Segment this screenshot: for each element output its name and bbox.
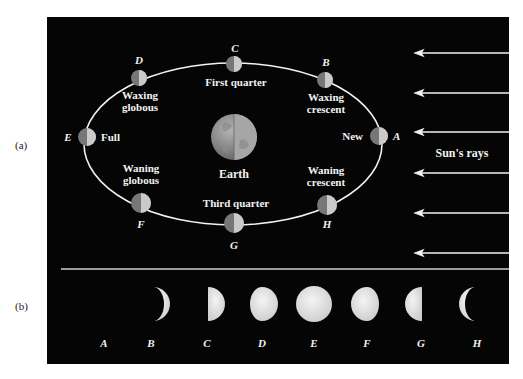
panel-label-b: (b) xyxy=(15,300,28,312)
phase-letter-f: F xyxy=(362,337,371,349)
moon-name-a: New xyxy=(342,130,363,142)
moon-icon-e xyxy=(78,128,96,146)
moon-name-h-line1: Waning xyxy=(308,164,345,176)
phase-letter-h: H xyxy=(472,337,482,349)
phase-letter-b: B xyxy=(146,337,154,349)
phase-icon-d xyxy=(250,287,278,321)
phase-letter-d: D xyxy=(257,337,266,349)
moon-name-d-line2: globous xyxy=(122,101,159,113)
moon-letter-d: D xyxy=(134,54,143,66)
moon-letter-e: E xyxy=(63,131,71,143)
arrow-left-icon xyxy=(415,129,509,135)
moon-icon-g xyxy=(224,213,244,233)
moon-name-d-line1: Waxing xyxy=(122,89,159,101)
moon-name-b-line2: crescent xyxy=(307,103,346,115)
phase-icon-g xyxy=(405,287,422,321)
phase-icon-e xyxy=(296,286,332,322)
phase-icon-b xyxy=(153,287,170,321)
moon-icon-c xyxy=(226,56,242,72)
moon-name-e: Full xyxy=(101,131,120,143)
moon-letter-b: B xyxy=(321,56,329,68)
moon-icon-h xyxy=(317,195,337,215)
phase-letter-e: E xyxy=(309,337,317,349)
moon-icon-f xyxy=(131,193,151,213)
phase-letter-c: C xyxy=(203,337,211,349)
panel-label-a: (a) xyxy=(15,139,27,151)
moon-name-h-line2: crescent xyxy=(307,176,346,188)
moon-letter-g: G xyxy=(230,239,238,251)
moon-name-f-line1: Waning xyxy=(123,162,160,174)
phase-letter-a: A xyxy=(99,337,107,349)
phase-letters: A B C D E F G H xyxy=(99,337,481,349)
moon-icon-b xyxy=(317,72,333,88)
arrow-left-icon xyxy=(415,210,509,216)
moon-letter-c: C xyxy=(231,42,239,54)
moon-name-f-line2: globous xyxy=(123,174,160,186)
arrow-left-icon xyxy=(415,50,509,56)
moon-name-b-line1: Waxing xyxy=(308,91,345,103)
phase-letter-g: G xyxy=(417,337,425,349)
arrow-left-icon xyxy=(415,170,509,176)
earth-label: Earth xyxy=(219,167,249,181)
moon-name-c: First quarter xyxy=(205,76,267,88)
phase-icon-h xyxy=(459,287,476,321)
moon-phases-diagram: Earth A New B Waxing crescent C First qu… xyxy=(47,17,509,364)
arrow-left-icon xyxy=(415,250,509,256)
moon-icon-d xyxy=(131,70,147,86)
arrow-left-icon xyxy=(415,90,509,96)
sun-rays-label: Sun's rays xyxy=(435,146,488,160)
moon-icon-a xyxy=(370,127,388,145)
moon-letter-f: F xyxy=(136,218,145,230)
phases-row xyxy=(153,286,476,322)
earth-icon xyxy=(211,114,257,160)
moon-name-g: Third quarter xyxy=(203,197,269,209)
moon-letter-a: A xyxy=(392,130,400,142)
moon-letter-h: H xyxy=(322,218,332,230)
diagram-frame: Earth A New B Waxing crescent C First qu… xyxy=(47,17,509,364)
phase-icon-f xyxy=(351,287,379,321)
phase-icon-c xyxy=(208,287,225,321)
